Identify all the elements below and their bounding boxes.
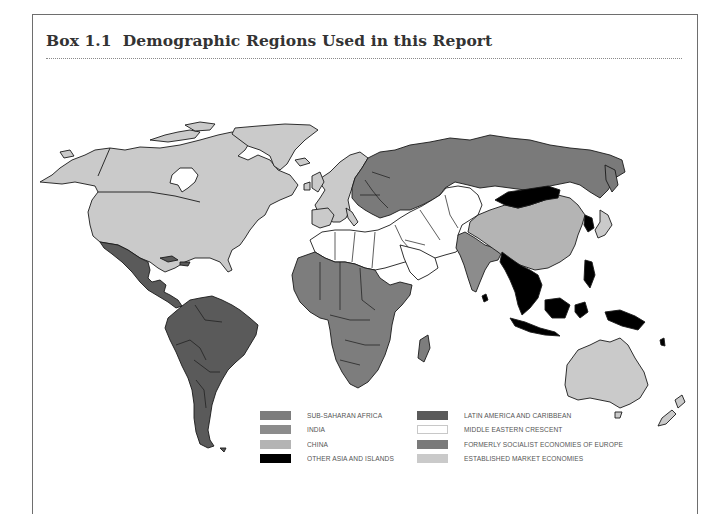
legend-column-left: SUB-SAHARAN AFRICA INDIA CHINA OTHER ASI… (260, 408, 401, 466)
legend-label: FORMERLY SOCIALIST ECONOMIES OF EUROPE (464, 440, 623, 449)
legend-label: SUB-SAHARAN AFRICA (307, 411, 382, 420)
region-australia (565, 338, 648, 408)
arctic-islands (150, 130, 200, 142)
legend-item-formerly-socialist: FORMERLY SOCIALIST ECONOMIES OF EUROPE (417, 437, 637, 452)
legend-label: LATIN AMERICA AND CARIBBEAN (464, 411, 571, 420)
legend-column-right: LATIN AMERICA AND CARIBBEAN MIDDLE EASTE… (417, 408, 637, 466)
legend-item-china: CHINA (260, 437, 401, 452)
legend-label: CHINA (307, 440, 328, 449)
swatch-other-asia (260, 454, 291, 463)
legend-item-middle-eastern-crescent: MIDDLE EASTERN CRESCENT (417, 423, 637, 438)
swatch-latin-america (417, 411, 448, 420)
legend-item-sub-saharan-africa: SUB-SAHARAN AFRICA (260, 408, 401, 423)
legend-item-established-market: ESTABLISHED MARKET ECONOMIES (417, 452, 637, 467)
region-formerly-socialist-europe (352, 135, 625, 218)
swatch-india (260, 425, 291, 434)
legend: SUB-SAHARAN AFRICA INDIA CHINA OTHER ASI… (260, 408, 700, 468)
swatch-sub-saharan-africa (260, 411, 291, 420)
legend-label: INDIA (307, 425, 325, 434)
legend-item-india: INDIA (260, 423, 401, 438)
legend-label: OTHER ASIA AND ISLANDS (307, 454, 394, 463)
legend-label: ESTABLISHED MARKET ECONOMIES (464, 454, 583, 463)
legend-item-latin-america: LATIN AMERICA AND CARIBBEAN (417, 408, 637, 423)
swatch-middle-eastern-crescent (417, 425, 448, 434)
legend-label: MIDDLE EASTERN CRESCENT (464, 425, 562, 434)
legend-item-other-asia: OTHER ASIA AND ISLANDS (260, 452, 401, 467)
region-north-america (40, 132, 298, 272)
swatch-formerly-socialist (417, 440, 448, 449)
swatch-china (260, 440, 291, 449)
swatch-established-market (417, 454, 448, 463)
